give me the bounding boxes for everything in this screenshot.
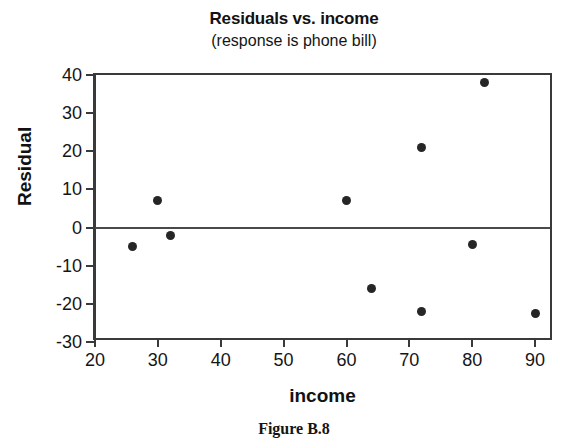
x-tick-label: 20	[85, 350, 105, 371]
y-tick: -20	[86, 303, 95, 305]
chart-subtitle: (response is phone bill)	[0, 30, 588, 51]
zero-line	[95, 227, 550, 229]
x-tick-label: 50	[274, 350, 294, 371]
x-tick: 60	[346, 338, 348, 347]
data-point	[342, 196, 351, 205]
x-tick: 80	[471, 338, 473, 347]
y-tick-label: 10	[62, 179, 82, 200]
y-tick: 10	[86, 188, 95, 190]
chart-title: Residuals vs. income	[0, 8, 588, 30]
y-tick-label: 0	[72, 217, 82, 238]
plot-inner: 403020100-10-20-302030405060708090	[95, 75, 550, 338]
data-point	[531, 309, 540, 318]
data-point	[128, 242, 137, 251]
plot-area: 403020100-10-20-302030405060708090	[93, 73, 552, 340]
y-tick-label: -10	[56, 255, 82, 276]
x-tick: 90	[534, 338, 536, 347]
figure-caption: Figure B.8	[0, 420, 588, 438]
x-tick-label: 60	[336, 350, 356, 371]
data-point	[153, 196, 162, 205]
y-tick: 20	[86, 150, 95, 152]
y-tick: -10	[86, 265, 95, 267]
data-point	[166, 231, 175, 240]
data-point	[417, 143, 426, 152]
y-tick: 30	[86, 112, 95, 114]
data-point	[480, 78, 489, 87]
x-tick-label: 70	[399, 350, 419, 371]
data-point	[417, 307, 426, 316]
y-tick: 0	[86, 227, 95, 229]
data-point	[468, 240, 477, 249]
data-point	[367, 284, 376, 293]
x-tick: 50	[283, 338, 285, 347]
x-tick-label: 30	[148, 350, 168, 371]
y-tick-label: -30	[56, 332, 82, 353]
y-tick-label: 40	[62, 65, 82, 86]
y-tick-label: 30	[62, 103, 82, 124]
x-tick: 20	[94, 338, 96, 347]
x-tick: 70	[408, 338, 410, 347]
title-block: Residuals vs. income (response is phone …	[0, 8, 588, 51]
x-tick: 40	[220, 338, 222, 347]
y-axis-title: Residual	[14, 127, 36, 206]
figure-b8: Residuals vs. income (response is phone …	[0, 0, 588, 448]
y-tick: 40	[86, 74, 95, 76]
x-tick-label: 90	[525, 350, 545, 371]
x-tick: 30	[157, 338, 159, 347]
y-tick-label: 20	[62, 141, 82, 162]
x-tick-label: 40	[211, 350, 231, 371]
y-tick-label: -20	[56, 293, 82, 314]
x-tick-label: 80	[462, 350, 482, 371]
x-axis-title: income	[93, 385, 552, 407]
